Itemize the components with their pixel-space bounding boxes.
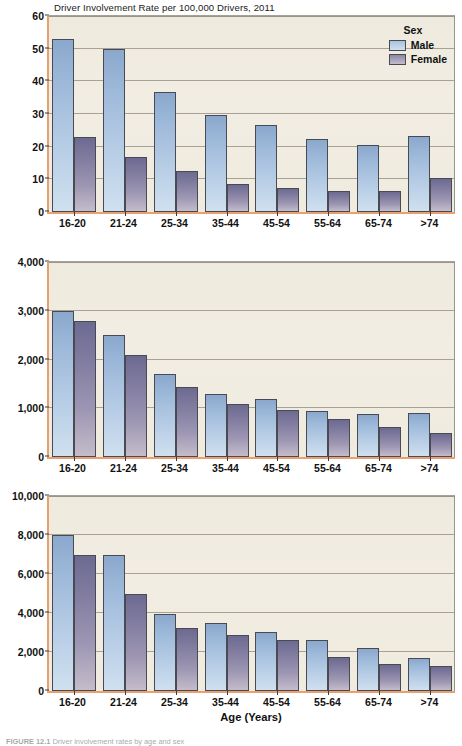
bar-male[interactable] <box>154 374 176 457</box>
y-tick-label: 8,000 <box>18 529 44 541</box>
bar-male[interactable] <box>103 49 125 212</box>
bar-female[interactable] <box>277 640 299 691</box>
x-tick-label: >74 <box>404 462 455 474</box>
bar-male[interactable] <box>255 632 277 691</box>
bar-female[interactable] <box>227 635 249 691</box>
bar-female[interactable] <box>125 594 147 692</box>
bar-group <box>201 496 252 691</box>
y-tick-label: 0 <box>38 451 44 463</box>
bar-female[interactable] <box>74 321 96 458</box>
x-tick-labels-fatal: 16-2021-2425-3435-4445-5455-6465-74>74 <box>47 217 455 229</box>
x-tick-mark <box>277 691 278 695</box>
bar-male[interactable] <box>255 399 277 457</box>
x-tick-label: 65-74 <box>353 696 404 708</box>
bar-female[interactable] <box>277 188 299 212</box>
bar-female[interactable] <box>227 404 249 457</box>
legend: Sex Male Female <box>389 24 447 67</box>
x-tick-mark <box>379 212 380 216</box>
bar-male[interactable] <box>306 411 328 457</box>
bar-female[interactable] <box>227 184 249 212</box>
x-tick-mark <box>328 457 329 461</box>
x-tick-label: 16-20 <box>47 217 98 229</box>
bar-female[interactable] <box>125 355 147 457</box>
bar-female[interactable] <box>430 433 452 457</box>
bar-male[interactable] <box>306 640 328 691</box>
bar-female[interactable] <box>430 178 452 212</box>
bar-group <box>49 496 100 691</box>
y-tick-label: 6,000 <box>18 568 44 580</box>
y-tick-label: 60 <box>32 10 44 22</box>
plot-wrap-injury: Injury Crashes 01,0002,0003,0004,000 <box>47 262 455 459</box>
legend-item-male[interactable]: Male <box>389 39 447 51</box>
bar-male[interactable] <box>306 139 328 213</box>
bar-male[interactable] <box>357 648 379 691</box>
x-tick-mark <box>227 457 228 461</box>
bar-male[interactable] <box>408 658 430 691</box>
bar-group <box>354 496 405 691</box>
bar-female[interactable] <box>125 157 147 212</box>
x-tick-mark <box>328 212 329 216</box>
bar-male[interactable] <box>205 394 227 457</box>
y-tick-label: 10 <box>32 173 44 185</box>
x-tick-label: 55-64 <box>302 696 353 708</box>
x-tick-mark <box>176 691 177 695</box>
bar-male[interactable] <box>154 614 176 691</box>
bar-male[interactable] <box>103 555 125 692</box>
bar-female[interactable] <box>176 628 198 691</box>
x-tick-label: 65-74 <box>353 217 404 229</box>
bar-female[interactable] <box>176 171 198 212</box>
x-tick-label: 35-44 <box>200 696 251 708</box>
legend-swatch-female-icon <box>389 54 406 65</box>
bar-female[interactable] <box>379 191 401 212</box>
x-tick-mark <box>125 691 126 695</box>
x-tick-mark <box>74 691 75 695</box>
bar-female[interactable] <box>176 387 198 457</box>
bar-female[interactable] <box>379 664 401 691</box>
bar-male[interactable] <box>408 136 430 212</box>
bar-male[interactable] <box>103 335 125 457</box>
bar-male[interactable] <box>255 125 277 212</box>
bar-group <box>151 16 202 212</box>
bar-male[interactable] <box>52 535 74 691</box>
bar-female[interactable] <box>277 410 299 457</box>
bar-female[interactable] <box>379 427 401 457</box>
panel-property-damage-only: Property Damage Only 02,0004,0006,0008,0… <box>0 480 462 728</box>
bar-male[interactable] <box>52 39 74 212</box>
bar-male[interactable] <box>357 414 379 457</box>
x-tick-mark <box>277 212 278 216</box>
bar-female[interactable] <box>74 555 96 692</box>
figure-caption-label: FIGURE 12.1 <box>6 737 50 746</box>
legend-item-female[interactable]: Female <box>389 53 447 65</box>
legend-label-male: Male <box>411 39 434 51</box>
bar-female[interactable] <box>74 137 96 212</box>
bar-group <box>201 16 252 212</box>
x-tick-mark <box>176 212 177 216</box>
bar-female[interactable] <box>328 419 350 457</box>
bar-groups-property <box>49 496 455 691</box>
bar-group <box>252 496 303 691</box>
bar-male[interactable] <box>205 115 227 212</box>
x-tick-mark <box>227 212 228 216</box>
bar-male[interactable] <box>52 311 74 457</box>
bar-male[interactable] <box>408 413 430 457</box>
x-tick-label: >74 <box>404 696 455 708</box>
bar-female[interactable] <box>430 666 452 691</box>
bar-female[interactable] <box>328 657 350 691</box>
x-tick-label: 35-44 <box>200 217 251 229</box>
legend-label-female: Female <box>411 53 447 65</box>
x-tick-mark <box>125 212 126 216</box>
bar-group <box>303 262 354 457</box>
plot-area-injury: 01,0002,0003,0004,000 <box>47 262 455 459</box>
y-tick-label: 0 <box>38 685 44 697</box>
bar-male[interactable] <box>154 92 176 212</box>
bar-group <box>252 16 303 212</box>
x-tick-label: 55-64 <box>302 462 353 474</box>
x-tick-label: 21-24 <box>98 217 149 229</box>
bar-male[interactable] <box>357 145 379 212</box>
y-tick-label: 40 <box>32 75 44 87</box>
x-tick-mark <box>379 457 380 461</box>
bar-male[interactable] <box>205 623 227 691</box>
bar-female[interactable] <box>328 191 350 212</box>
x-tick-label: 16-20 <box>47 696 98 708</box>
x-tick-label: 25-34 <box>149 462 200 474</box>
